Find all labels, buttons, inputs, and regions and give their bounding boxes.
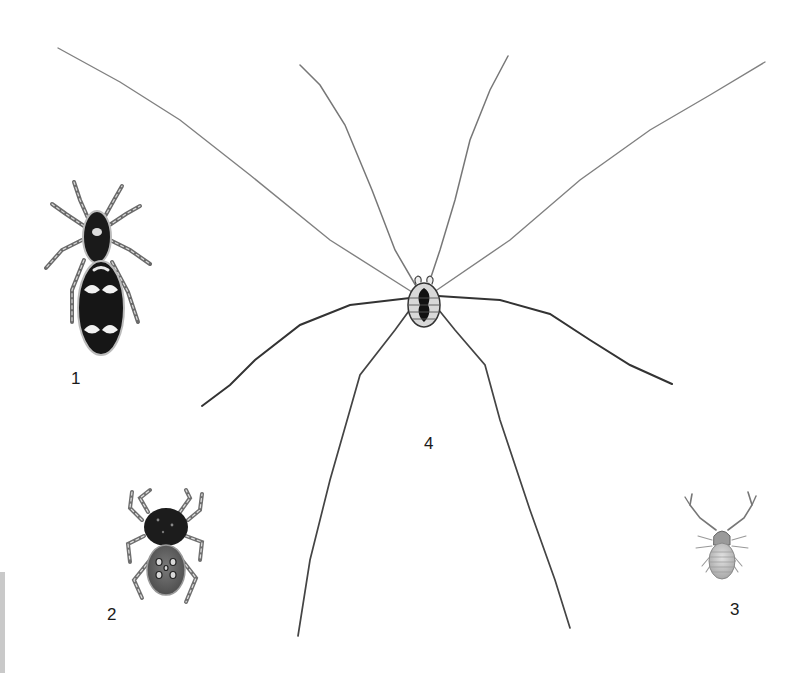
arachnid-illustration [0,0,809,673]
specimen-label-2: 2 [107,606,116,623]
jumping-spider-1-figure [46,182,150,355]
jumping-spider-2-figure [128,490,202,602]
specimen-label-3: 3 [730,601,739,618]
illustration-plate: 1 2 3 4 [0,0,809,673]
edge-bar [0,572,5,673]
pseudoscorpion-figure [685,492,756,579]
specimen-label-1: 1 [71,370,80,387]
specimen-label-4: 4 [424,435,433,452]
